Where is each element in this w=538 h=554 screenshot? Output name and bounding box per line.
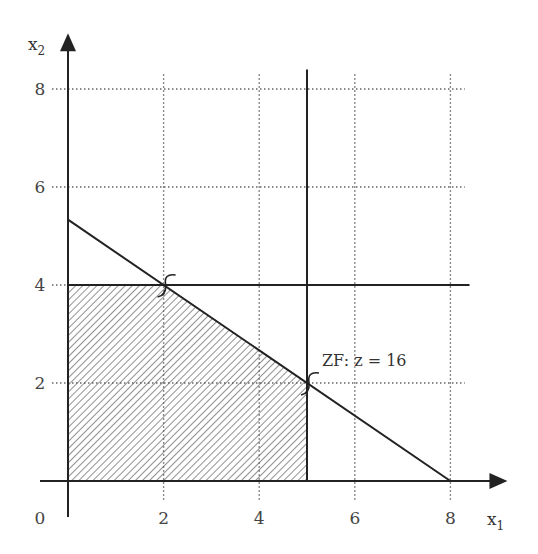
y-axis-label: x2 [28, 34, 45, 58]
lp-chart: 024682468x2x1ZF: z = 16 [0, 0, 538, 540]
y-tick-label-6: 6 [35, 177, 46, 197]
y-tick-label-8: 8 [35, 79, 46, 99]
x-tick-label-6: 6 [349, 508, 360, 528]
y-axis-arrow [60, 33, 76, 51]
x-tick-label-0: 0 [35, 508, 46, 528]
objective-annotation: ZF: z = 16 [322, 351, 407, 370]
y-tick-label-2: 2 [35, 373, 46, 393]
x-tick-label-4: 4 [254, 508, 265, 528]
x-axis-arrow [489, 473, 507, 489]
caption-cutoff [0, 540, 538, 554]
x-axis-label: x1 [487, 509, 504, 533]
y-tick-label-4: 4 [35, 275, 46, 295]
x-tick-label-2: 2 [158, 508, 169, 528]
feasible-region [68, 285, 307, 481]
x-tick-label-8: 8 [445, 508, 456, 528]
